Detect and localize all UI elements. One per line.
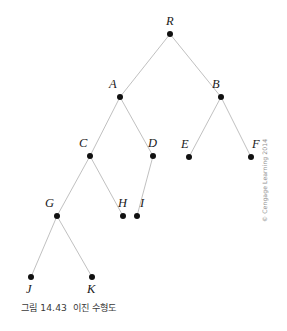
- tree-node-label-a: A: [109, 78, 117, 91]
- tree-node-f: [248, 154, 254, 160]
- tree-node-d: [150, 153, 156, 159]
- tree-node-label-r: R: [166, 15, 174, 28]
- caption-title: 이진 수형도: [73, 302, 117, 313]
- tree-edge-a-c: [90, 97, 120, 156]
- tree-edge-b-f: [221, 97, 251, 157]
- tree-node-label-g: G: [45, 197, 54, 210]
- tree-node-label-e: E: [181, 138, 189, 151]
- tree-edge-r-a: [120, 34, 170, 97]
- tree-node-label-j: J: [26, 283, 32, 296]
- tree-edge-g-k: [57, 216, 92, 277]
- tree-node-b: [218, 94, 224, 100]
- tree-node-c: [87, 153, 93, 159]
- tree-node-a: [117, 94, 123, 100]
- tree-edge-g-j: [31, 216, 57, 277]
- tree-node-g: [54, 213, 60, 219]
- copyright-notice: © Cengage Learning 2014: [258, 132, 272, 222]
- figure-caption: 그림 14.43이진 수형도: [21, 300, 117, 314]
- tree-node-label-i: I: [140, 197, 144, 210]
- tree-node-label-b: B: [212, 78, 220, 91]
- tree-edge-b-e: [189, 97, 221, 157]
- tree-node-r: [167, 31, 173, 37]
- tree-node-e: [186, 154, 192, 160]
- tree-node-k: [89, 274, 95, 280]
- tree-node-h: [120, 213, 126, 219]
- caption-figure-number: 그림 14.43: [21, 302, 67, 313]
- binary-tree-diagram: RABCDEFGHIJK: [0, 0, 287, 296]
- tree-node-label-k: K: [87, 283, 96, 296]
- tree-node-j: [28, 274, 34, 280]
- tree-node-group: [28, 31, 254, 280]
- tree-node-label-c: C: [79, 137, 88, 150]
- tree-svg: [0, 0, 287, 296]
- tree-node-label-h: H: [118, 197, 127, 210]
- tree-node-i: [134, 213, 140, 219]
- tree-node-label-d: D: [148, 137, 157, 150]
- tree-edge-c-g: [57, 156, 90, 216]
- figure-container: RABCDEFGHIJK 그림 14.43이진 수형도 © Cengage Le…: [0, 0, 287, 331]
- tree-edge-group: [31, 34, 251, 277]
